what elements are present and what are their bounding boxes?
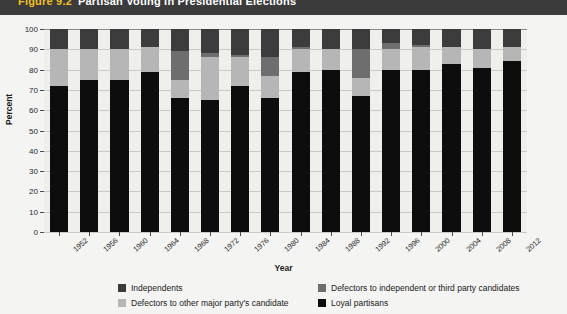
chart-container: Percent 01020304050607080901001952195619… [0,15,567,314]
x-axis-tick-mark [89,232,90,236]
bar-segment [412,47,430,69]
y-axis-tick-mark [40,90,44,91]
bar-1984[interactable] [292,29,310,232]
bar-2012[interactable] [503,29,521,232]
bar-1992[interactable] [352,29,370,232]
bar-segment [352,29,370,49]
bar-segment [231,57,249,85]
bar-segment [352,49,370,77]
bar-segment [322,70,340,232]
bar-segment [382,49,400,69]
bar-segment [171,51,189,79]
bar-segment [503,29,521,47]
legend-color-swatch [318,284,326,292]
y-axis-tick-mark [40,232,44,233]
x-axis-tick-label: 1972 [222,236,240,254]
bar-segment [503,61,521,232]
x-axis-tick-mark [210,232,211,236]
bar-segment [231,86,249,232]
bar-1988[interactable] [322,29,340,232]
plot-area: 0102030405060708090100195219561960196419… [44,29,527,232]
bar-segment [473,29,491,49]
bar-segment [201,57,219,100]
bar-segment [292,29,310,47]
y-axis-tick-mark [40,110,44,111]
x-axis-tick-label: 1996 [403,236,421,254]
gridline [44,232,527,233]
legend-color-swatch [118,299,126,307]
figure-title-bar: Figure 9.2 Partisan Voting in Presidenti… [0,0,567,15]
bar-segment [50,86,68,232]
x-axis-tick-label: 1960 [132,236,150,254]
bar-segment [412,29,430,45]
bar-segment [110,49,128,79]
bar-segment [442,29,460,47]
bar-1964[interactable] [141,29,159,232]
legend-color-swatch [118,284,126,292]
bar-segment [261,76,279,98]
bar-2004[interactable] [442,29,460,232]
bar-1972[interactable] [201,29,219,232]
x-axis-tick-label: 2004 [464,236,482,254]
bar-segment [442,47,460,63]
legend-label: Defectors to independent or third party … [331,283,520,293]
bar-segment [50,29,68,49]
bar-2000[interactable] [412,29,430,232]
bar-segment [412,70,430,232]
bar-1960[interactable] [110,29,128,232]
x-axis-tick-mark [391,232,392,236]
y-axis-tick-mark [40,29,44,30]
bar-segment [141,72,159,232]
x-axis-tick-label: 1956 [102,236,120,254]
bar-1980[interactable] [261,29,279,232]
bar-segment [503,47,521,61]
x-axis-tick-label: 1988 [343,236,361,254]
x-axis-tick-label: 1952 [71,236,89,254]
chart-legend: IndependentsDefectors to independent or … [0,281,567,314]
x-axis-tick-label: 2012 [524,236,542,254]
bar-1968[interactable] [171,29,189,232]
y-axis-tick-mark [40,70,44,71]
bar-segment [261,98,279,232]
bar-segment [261,57,279,75]
x-axis-tick-label: 1964 [162,236,180,254]
x-axis-tick-label: 1984 [313,236,331,254]
bar-segment [201,100,219,232]
x-axis-tick-mark [180,232,181,236]
x-axis-tick-mark [301,232,302,236]
x-axis-label: Year [0,263,567,273]
x-axis-tick-mark [59,232,60,236]
bar-segment [322,29,340,49]
bar-segment [382,70,400,232]
bar-segment [80,29,98,49]
legend-item[interactable]: Loyal partisans [318,298,388,308]
x-axis-tick-label: 1968 [192,236,210,254]
y-axis-tick-mark [40,171,44,172]
bar-segment [110,29,128,49]
x-axis-tick-label: 1980 [283,236,301,254]
bar-1976[interactable] [231,29,249,232]
bar-segment [292,49,310,71]
bar-1956[interactable] [80,29,98,232]
bar-1952[interactable] [50,29,68,232]
bar-segment [473,49,491,67]
legend-label: Defectors to other major party's candida… [131,298,289,308]
bar-segment [261,29,279,57]
bar-2008[interactable] [473,29,491,232]
bar-1996[interactable] [382,29,400,232]
bar-segment [292,72,310,232]
x-axis-tick-label: 2008 [494,236,512,254]
legend-item[interactable]: Independents [118,283,183,293]
legend-item[interactable]: Defectors to other major party's candida… [118,298,289,308]
y-axis-tick-mark [40,212,44,213]
figure-title: Partisan Voting in Presidential Election… [78,0,296,7]
legend-color-swatch [318,299,326,307]
bar-segment [141,29,159,47]
bar-segment [473,68,491,232]
y-axis-tick-mark [40,131,44,132]
bar-segment [80,80,98,232]
x-axis-tick-mark [452,232,453,236]
x-axis-tick-mark [361,232,362,236]
x-axis-tick-label: 1992 [373,236,391,254]
legend-item[interactable]: Defectors to independent or third party … [318,283,520,293]
